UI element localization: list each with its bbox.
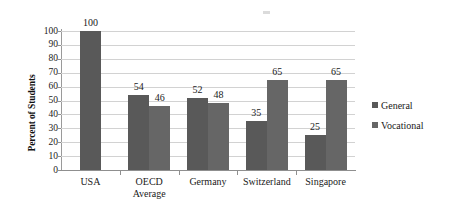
gridline [61, 31, 355, 32]
y-axis-tick-mark [57, 101, 61, 102]
gridline [61, 45, 355, 46]
y-axis-tick-mark [57, 59, 61, 60]
y-axis-tick-label: 70 [32, 68, 58, 77]
legend-swatch-vocational-icon [372, 122, 378, 128]
x-axis-tick-mark [120, 171, 121, 175]
chart-legend: General Vocational [372, 95, 449, 135]
gridline [61, 101, 355, 102]
legend-swatch-general-icon [372, 102, 378, 108]
x-axis-category-label: Singapore [286, 176, 365, 188]
bar-value-label: 48 [202, 90, 235, 100]
bar-vocational-oecd-average[interactable] [149, 106, 170, 170]
gridline [61, 59, 355, 60]
y-axis-tick-mark [57, 114, 61, 115]
legend-label-general: General [381, 100, 413, 111]
x-axis-tick-mark [296, 171, 297, 175]
y-axis-tick-mark [57, 73, 61, 74]
bar-value-label: 65 [320, 67, 353, 77]
y-axis-tick-label: 40 [32, 110, 58, 119]
y-axis-tick-label: 100 [32, 27, 58, 36]
gridline [61, 73, 355, 74]
bar-general-switzerland[interactable] [246, 121, 267, 170]
y-axis-tick-label: 20 [32, 138, 58, 147]
plot-area: 1005446524835652565 [61, 31, 355, 170]
bar-value-label: 46 [143, 93, 176, 103]
y-axis-tick-mark [57, 45, 61, 46]
y-axis-tick-label: 50 [32, 96, 58, 105]
bar-chart: Percent of Students 10090807060504030201… [0, 0, 449, 220]
bar-value-label: 65 [261, 67, 294, 77]
bar-general-oecd-average[interactable] [128, 95, 149, 170]
y-axis-tick-mark [57, 31, 61, 32]
y-axis-tick-label: 0 [32, 166, 58, 175]
y-axis-tick-label: 80 [32, 54, 58, 63]
legend-item-general: General [372, 95, 449, 115]
y-axis-tick-mark [57, 170, 61, 171]
x-axis-tick-mark [237, 171, 238, 175]
bar-general-usa[interactable] [80, 31, 101, 170]
y-axis-tick-mark [57, 128, 61, 129]
x-axis-line [61, 170, 356, 171]
y-axis-tick-label: 10 [32, 152, 58, 161]
y-axis-tick-label: 30 [32, 124, 58, 133]
y-axis-tick-label: 90 [32, 40, 58, 49]
bar-vocational-switzerland[interactable] [267, 80, 288, 170]
bar-vocational-germany[interactable] [208, 103, 229, 170]
bar-value-label: 54 [122, 82, 155, 92]
legend-label-vocational: Vocational [381, 120, 424, 131]
bar-general-germany[interactable] [187, 98, 208, 170]
y-axis-tick-mark [57, 142, 61, 143]
y-axis-tick-label: 60 [32, 82, 58, 91]
bar-general-singapore[interactable] [305, 135, 326, 170]
y-axis-tick-mark [57, 87, 61, 88]
bar-vocational-singapore[interactable] [326, 80, 347, 170]
y-axis-tick-mark [57, 156, 61, 157]
legend-item-vocational: Vocational [372, 115, 449, 135]
bar-value-label: 100 [74, 18, 107, 28]
scan-artifact [263, 11, 270, 14]
x-axis-tick-mark [179, 171, 180, 175]
